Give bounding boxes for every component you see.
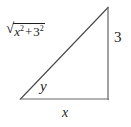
- hypotenuse-line: [21, 8, 109, 100]
- triangle-diagram-canvas: √ x2+32 3 y x: [0, 0, 131, 127]
- bottom-leg-label: x: [62, 106, 68, 120]
- right-leg-label: 3: [114, 30, 122, 45]
- radicand-group: x2+32: [13, 23, 45, 38]
- hypotenuse-label: √ x2+32: [6, 23, 45, 38]
- radicand-operator: +: [24, 24, 33, 39]
- radical-sign-icon: √: [6, 22, 14, 36]
- angle-label: y: [40, 79, 47, 94]
- radicand-exponent-2: 2: [40, 24, 44, 33]
